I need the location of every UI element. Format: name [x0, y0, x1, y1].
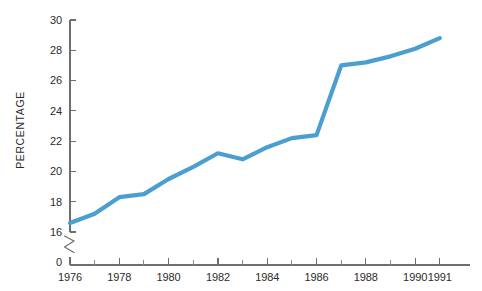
y-tick-label: 30	[50, 14, 62, 26]
y-axis-ticks	[70, 20, 76, 232]
y-tick-label: 16	[50, 226, 62, 238]
x-axis-major-ticks	[70, 258, 440, 265]
x-tick-label: 1976	[58, 271, 82, 283]
x-tick-label: 1984	[255, 271, 279, 283]
x-tick-label: 1990	[403, 271, 427, 283]
y-tick-label: 20	[50, 165, 62, 177]
y-axis-title: PERCENTAGE	[14, 91, 26, 169]
x-tick-label: 1978	[107, 271, 131, 283]
line-chart: 30282624222018160 1976197819801982198419…	[0, 0, 482, 291]
x-tick-label: 1980	[157, 271, 181, 283]
x-tick-label: 1986	[305, 271, 329, 283]
x-tick-label: 1988	[354, 271, 378, 283]
y-tick-label-zero: 0	[56, 256, 62, 268]
y-tick-label: 22	[50, 135, 62, 147]
y-tick-label: 26	[50, 74, 62, 86]
y-tick-label: 28	[50, 44, 62, 56]
x-tick-label: 1982	[206, 271, 230, 283]
x-tick-label: 1991	[428, 271, 452, 283]
x-axis-tick-labels: 197619781980198219841986198819901991	[58, 271, 452, 283]
y-tick-label: 18	[50, 196, 62, 208]
chart-container: 30282624222018160 1976197819801982198419…	[0, 0, 482, 291]
data-series-line	[70, 38, 440, 223]
y-tick-label: 24	[50, 105, 62, 117]
y-axis-tick-labels: 30282624222018160	[50, 14, 62, 268]
axis-break-icon	[65, 236, 75, 253]
x-axis-minor-ticks	[95, 260, 391, 265]
